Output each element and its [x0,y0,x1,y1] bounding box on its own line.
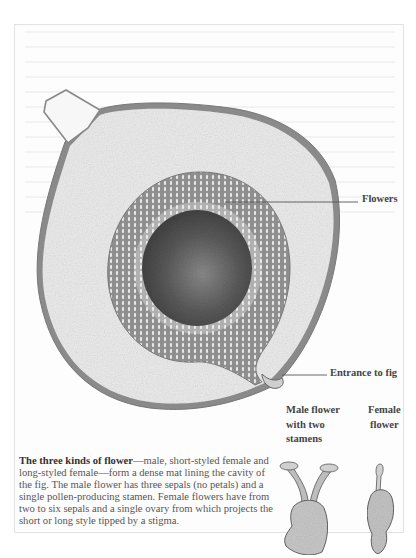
male-flower-label-line: Male flower [286,403,340,418]
female-flower-drawing [367,464,393,554]
female-flower-label-line: Female [368,403,401,418]
flowers-label: Flowers [362,194,398,205]
male-flower-label-line: with two [286,418,340,433]
figure-caption: The three kinds of flower—male, short-st… [19,455,273,528]
female-flower-label-line: flower [368,418,401,433]
caption-lead: The three kinds of flower [19,455,133,466]
male-flower-label-line: stamens [286,432,340,447]
male-flower-label: Male flower with two stamens [286,403,340,447]
female-flower-label: Female flower [368,403,401,432]
entrance-label: Entrance to fig [330,368,397,379]
male-flower-drawing [280,462,338,555]
fig-cavity [142,210,252,326]
